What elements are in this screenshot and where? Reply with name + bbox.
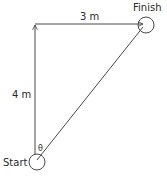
displacement-diagram: Finish 3 m 4 m θ Start xyxy=(0,0,167,183)
start-label: Start xyxy=(3,157,28,168)
resultant-vector-line xyxy=(37,27,143,160)
vertical-distance-label: 4 m xyxy=(12,89,31,100)
finish-circle-icon xyxy=(138,17,154,33)
angle-theta-label: θ xyxy=(38,144,43,153)
finish-label: Finish xyxy=(133,2,161,13)
start-circle-icon xyxy=(29,154,45,170)
horizontal-distance-label: 3 m xyxy=(80,11,99,22)
